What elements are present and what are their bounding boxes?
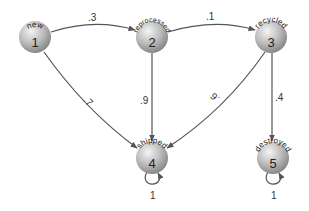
edge-label-1-2: .3 <box>88 12 97 23</box>
edge-2-to-3 <box>168 24 255 32</box>
edge-label-2-3: .1 <box>206 11 215 22</box>
node-number-5: 5 <box>269 156 276 171</box>
self-loop-label-4: 1 <box>150 190 156 201</box>
node-destroyed: destroyed 5 <box>253 136 293 174</box>
node-number-1: 1 <box>31 35 38 50</box>
svg-text:new: new <box>25 20 44 31</box>
node-name-new: new <box>25 20 44 31</box>
edge-label-3-4: .6 <box>208 90 222 104</box>
node-number-2: 2 <box>148 35 155 50</box>
edge-label-3-5: .4 <box>275 92 284 103</box>
self-loop-label-5: 1 <box>271 190 277 201</box>
node-shipped: shipped 4 <box>135 136 169 174</box>
markov-chain-diagram: .3 .1 .7 .9 .6 .4 1 1 new 1 reprocessed … <box>0 0 309 211</box>
node-recycled: recycled 3 <box>253 15 289 53</box>
edge-1-to-2 <box>51 24 135 32</box>
node-new: new 1 <box>19 20 51 53</box>
node-number-3: 3 <box>267 35 274 50</box>
edge-label-2-4: .9 <box>140 95 149 106</box>
node-number-4: 4 <box>148 156 155 171</box>
node-reprocessed: reprocessed 2 <box>132 16 172 53</box>
edge-label-1-4: .7 <box>82 94 96 108</box>
